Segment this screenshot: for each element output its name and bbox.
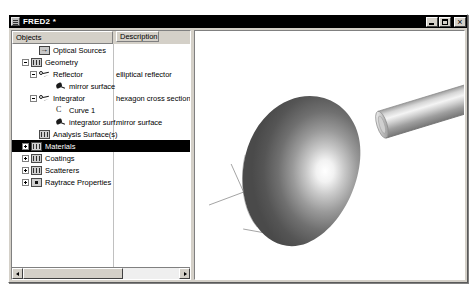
tree-row-list: Optical SourcesGeometryReflectorelliptic… [12,44,190,188]
tree-horizontal-scrollbar[interactable] [12,267,190,279]
tree-row-label: Geometry [44,58,80,67]
window-titlebar: FRED2 * [9,15,467,28]
arrow-into-box-icon-glyph [39,46,50,55]
expand-icon[interactable] [22,155,29,162]
grid-box-icon-glyph [31,154,42,163]
tree-row-label: Analysis Surface(s) [52,130,120,139]
tree-row-label: Coatings [44,154,77,163]
tree-row[interactable]: Scatterers [12,164,190,176]
tree-row-label: Integrator [52,94,87,103]
window-controls [426,17,466,27]
arrow-into-box-icon [39,46,50,55]
grid-box-icon [39,130,50,139]
surface-leaf-icon [55,118,66,127]
key-icon [39,94,50,103]
surface-leaf-icon [55,82,66,91]
tree-row-label: mirror surface [68,82,117,91]
expand-icon[interactable] [22,143,29,150]
collapse-icon[interactable] [30,95,37,102]
integrator-rod-cylinder [373,83,464,139]
tree-row-label: Optical Sources [52,46,108,55]
tree-row[interactable]: mirror surface [12,80,190,92]
grid-box-icon [31,58,42,67]
curve-icon [55,106,66,115]
surface-leaf-icon-glyph [55,82,66,91]
minimize-button[interactable] [426,17,438,27]
window-title: FRED2 * [23,15,56,28]
maximize-button[interactable] [439,17,451,27]
tree-row[interactable]: Coatings [12,152,190,164]
curve-icon-glyph [55,106,66,115]
collapse-icon[interactable] [30,71,37,78]
tree-row-description: mirror surface [116,118,162,127]
tree-row[interactable]: Curve 1 [12,104,190,116]
grid-box-icon [31,154,42,163]
dot-box-icon-glyph [31,178,42,187]
grid-box-icon [31,166,42,175]
tree-row-label: integrator surf. [68,118,119,127]
window-client-area: Objects Description Optical SourcesGeome… [9,28,467,282]
scrollbar-thumb[interactable] [23,268,123,279]
surface-leaf-icon-glyph [55,118,66,127]
close-button[interactable] [454,17,466,27]
expand-icon[interactable] [22,179,29,186]
expand-icon[interactable] [22,167,29,174]
tree-row-label: Scatterers [44,166,81,175]
fred2-window: FRED2 * Objects Description Optical Sour… [8,14,468,283]
tree-body: Optical SourcesGeometryReflectorelliptic… [12,44,190,267]
tree-row-label: Materials [44,142,77,151]
tree-row[interactable]: Integratorhexagon cross section [12,92,190,104]
key-icon-glyph [39,94,50,103]
column-header-objects[interactable]: Objects [12,31,113,44]
tree-row-description: elliptical reflector [116,70,172,79]
grid-box-icon-glyph [31,142,42,151]
tree-row-label: Reflector [52,70,85,79]
grid-box-icon-glyph [31,166,42,175]
window-menu-icon[interactable] [11,17,20,26]
tree-row[interactable]: Reflectorelliptical reflector [12,68,190,80]
key-icon-glyph [39,70,50,79]
tree-row[interactable]: Geometry [12,56,190,68]
3d-scene [195,31,464,279]
column-header-description[interactable]: Description [116,31,159,42]
tree-row[interactable]: Raytrace Properties [12,176,190,188]
grid-box-icon-glyph [39,130,50,139]
collapse-icon[interactable] [22,59,29,66]
dot-box-icon [31,178,42,187]
tree-row[interactable]: Optical Sources [12,44,190,56]
key-icon [39,70,50,79]
elliptical-reflector-dome [242,96,360,246]
scroll-right-icon[interactable] [179,268,190,279]
tree-column-headers: Objects Description [12,31,190,44]
tree-row[interactable]: Analysis Surface(s) [12,128,190,140]
scroll-left-icon[interactable] [12,268,23,279]
grid-box-icon-glyph [31,58,42,67]
3d-model-view[interactable] [194,30,465,280]
tree-row[interactable]: integrator surf.mirror surface [12,116,190,128]
tree-row-label: Curve 1 [68,106,97,115]
tree-row[interactable]: Materials [12,140,190,152]
tree-row-description: hexagon cross section [116,94,190,103]
tree-row-label: Raytrace Properties [44,178,113,187]
object-tree-panel: Objects Description Optical SourcesGeome… [11,30,191,280]
scrollbar-track[interactable] [23,268,179,279]
grid-box-icon [31,142,42,151]
